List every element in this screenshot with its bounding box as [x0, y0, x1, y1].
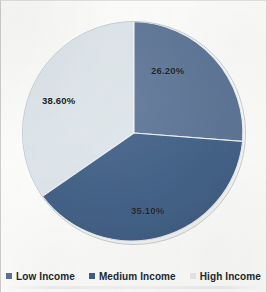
legend-item-low-income[interactable]: Low Income	[6, 271, 75, 282]
chart-legend: Low Income Medium Income High Income	[0, 266, 267, 286]
pie-svg	[0, 2, 267, 260]
legend-label-high-income: High Income	[200, 271, 261, 282]
legend-item-high-income[interactable]: High Income	[190, 271, 261, 282]
pie-label-medium-income: 35.10%	[131, 205, 164, 216]
chart-plot-area: 26.20% 35.10% 38.60%	[0, 2, 267, 260]
scan-smudge	[6, 286, 261, 289]
pie-chart-figure: 26.20% 35.10% 38.60% Low Income Medium I…	[0, 0, 267, 292]
pie-label-low-income: 26.20%	[151, 65, 184, 76]
legend-swatch-icon-high-income	[190, 273, 196, 279]
legend-label-low-income: Low Income	[16, 271, 75, 282]
pie-label-high-income: 38.60%	[42, 95, 75, 106]
legend-swatch-icon-low-income	[6, 273, 12, 279]
legend-label-medium-income: Medium Income	[99, 271, 176, 282]
legend-swatch-icon-medium-income	[89, 273, 95, 279]
legend-item-medium-income[interactable]: Medium Income	[89, 271, 176, 282]
